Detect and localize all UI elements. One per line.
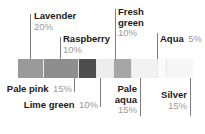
leader-line-silver <box>190 78 191 116</box>
callout-aqua-percent: 5% <box>188 33 202 44</box>
callout-lavender-name: Lavender <box>34 11 76 22</box>
callout-raspberry-name: Raspberry <box>63 34 110 45</box>
callout-pale-pink-name: Pale pink <box>7 83 49 94</box>
callout-raspberry: Raspberry 10% <box>63 34 110 55</box>
callout-fresh-green-name: Fresh <box>118 7 144 18</box>
stacked-proportion-bar <box>18 59 193 78</box>
leader-line-lime-green <box>100 78 101 107</box>
bar-segment-pale-aqua[interactable] <box>132 59 158 78</box>
callout-silver-name: Silver <box>152 90 187 101</box>
callout-aqua: Aqua 5% <box>160 32 202 45</box>
callout-lime-green-name: Lime green <box>24 99 75 110</box>
callout-pale-pink: Pale pink 15% <box>0 82 72 95</box>
leader-line-lavender <box>30 14 31 59</box>
leader-line-aqua <box>157 33 158 59</box>
leader-line-pale-aqua <box>140 78 141 116</box>
leader-line-fresh-green <box>115 9 116 59</box>
callout-silver-percent: 15% <box>152 101 187 112</box>
bar-segment-silver[interactable] <box>167 59 193 78</box>
callout-lime-green-percent: 10% <box>79 99 98 110</box>
callout-fresh-green-percent: 10% <box>118 28 144 39</box>
bar-segment-pale-pink[interactable] <box>18 59 44 78</box>
bar-segment-fresh-green[interactable] <box>114 59 132 78</box>
callout-silver: Silver 15% <box>152 90 187 111</box>
callout-lavender: Lavender 20% <box>34 11 76 32</box>
bar-segment-raspberry[interactable] <box>79 59 97 78</box>
bar-segment-lime-green[interactable] <box>97 59 115 78</box>
leader-line-raspberry <box>60 37 61 59</box>
callout-raspberry-percent: 10% <box>63 45 110 56</box>
callout-lavender-percent: 20% <box>34 22 76 33</box>
callout-aqua-name: Aqua <box>160 33 184 44</box>
leader-line-pale-pink <box>74 78 75 92</box>
callout-pale-pink-percent: 15% <box>53 83 72 94</box>
callout-pale-aqua-name: Pale <box>104 84 137 95</box>
bar-segment-lavender[interactable] <box>44 59 79 78</box>
bar-segment-aqua[interactable] <box>158 59 167 78</box>
color-proportion-chart: Lavender 20% Raspberry 10% Fresh green 1… <box>0 0 205 134</box>
callout-fresh-green: Fresh green 10% <box>118 7 144 39</box>
callout-pale-aqua: Pale aqua 15% <box>104 84 137 116</box>
callout-lime-green: Lime green 10% <box>20 98 98 111</box>
callout-pale-aqua-percent: 15% <box>104 105 137 116</box>
